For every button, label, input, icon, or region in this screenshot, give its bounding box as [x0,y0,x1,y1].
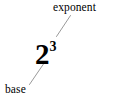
base-label: base [5,83,26,95]
exponent-diagram: exponent 23 base [0,0,114,102]
exponent-digit: 3 [50,39,57,54]
exponent-leader-line [57,16,71,37]
power-expression: 23 [35,33,57,70]
exponent-label: exponent [53,1,96,13]
base-digit: 2 [35,38,50,70]
